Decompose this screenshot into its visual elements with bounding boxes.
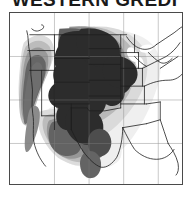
map-base-layer bbox=[10, 13, 182, 184]
figure-title-band: WESTERN GREDI bbox=[0, 0, 189, 9]
us-choropleth-map bbox=[10, 13, 182, 184]
page-title: WESTERN GREDI bbox=[12, 0, 178, 9]
map-figure: WESTERN GREDI bbox=[0, 0, 189, 199]
map-frame bbox=[9, 12, 183, 185]
